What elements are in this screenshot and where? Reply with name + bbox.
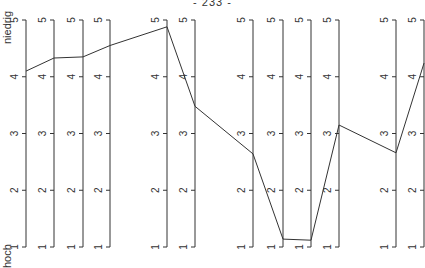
tick-label: 4 — [37, 74, 48, 80]
tick-label: 5 — [379, 17, 390, 23]
vertical-axis: 12345 — [294, 17, 311, 250]
tick-label: 4 — [66, 74, 77, 80]
tick-label: 2 — [294, 187, 305, 193]
tick-label: 4 — [379, 74, 390, 80]
vertical-axis: 12345 — [9, 17, 26, 250]
tick-label: 1 — [93, 244, 104, 250]
tick-label: 4 — [93, 74, 104, 80]
tick-label: 4 — [9, 74, 20, 80]
tick-label: 4 — [322, 74, 333, 80]
tick-label: 3 — [93, 130, 104, 136]
tick-label: 1 — [66, 244, 77, 250]
tick-label: 5 — [322, 17, 333, 23]
tick-label: 3 — [294, 130, 305, 136]
axis-label-bottom: hoch — [1, 244, 13, 268]
axis-label-top: niedrig — [1, 11, 13, 44]
tick-label: 3 — [150, 130, 161, 136]
vertical-axis: 12345 — [178, 17, 195, 250]
tick-label: 1 — [266, 244, 277, 250]
tick-label: 5 — [294, 17, 305, 23]
tick-label: 4 — [266, 74, 277, 80]
tick-label: 3 — [266, 130, 277, 136]
tick-label: 2 — [93, 187, 104, 193]
tick-label: 5 — [150, 17, 161, 23]
tick-label: 1 — [294, 244, 305, 250]
tick-label: 2 — [37, 187, 48, 193]
profile-line — [26, 27, 424, 240]
tick-label: 1 — [379, 244, 390, 250]
tick-label: 5 — [266, 17, 277, 23]
tick-label: 3 — [9, 130, 20, 136]
tick-label: 2 — [178, 187, 189, 193]
tick-label: 3 — [66, 130, 77, 136]
vertical-axis: 12345 — [236, 17, 253, 250]
vertical-axis: 12345 — [37, 17, 54, 250]
tick-label: 4 — [294, 74, 305, 80]
tick-label: 5 — [66, 17, 77, 23]
tick-label: 2 — [379, 187, 390, 193]
tick-label: 3 — [407, 130, 418, 136]
vertical-axis: 12345 — [66, 17, 83, 250]
tick-label: 5 — [178, 17, 189, 23]
tick-label: 3 — [236, 130, 247, 136]
tick-label: 1 — [150, 244, 161, 250]
tick-label: 2 — [266, 187, 277, 193]
tick-label: 1 — [37, 244, 48, 250]
tick-label: 1 — [407, 244, 418, 250]
tick-label: 5 — [37, 17, 48, 23]
tick-label: 4 — [236, 74, 247, 80]
tick-label: 4 — [407, 74, 418, 80]
tick-label: 5 — [93, 17, 104, 23]
tick-label: 3 — [379, 130, 390, 136]
vertical-axis: 12345 — [322, 17, 339, 250]
tick-label: 1 — [322, 244, 333, 250]
tick-label: 4 — [150, 74, 161, 80]
tick-label: 2 — [9, 187, 20, 193]
tick-label: 1 — [178, 244, 189, 250]
vertical-axis: 12345 — [150, 17, 167, 250]
tick-label: 3 — [37, 130, 48, 136]
vertical-axis: 12345 — [379, 17, 396, 250]
tick-label: 3 — [178, 130, 189, 136]
tick-label: 5 — [407, 17, 418, 23]
vertical-axis: 12345 — [407, 17, 424, 250]
tick-label: 3 — [322, 130, 333, 136]
tick-label: 2 — [66, 187, 77, 193]
tick-label: 1 — [236, 244, 247, 250]
tick-label: 5 — [236, 17, 247, 23]
tick-label: 2 — [407, 187, 418, 193]
tick-label: 2 — [150, 187, 161, 193]
tick-label: 2 — [236, 187, 247, 193]
